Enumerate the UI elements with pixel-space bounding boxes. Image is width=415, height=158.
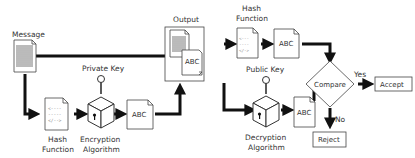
decryption-label-2: Algorithm (248, 143, 285, 152)
signature-document: ABC (127, 100, 153, 129)
accept-text: Accept (380, 81, 404, 89)
digest-document: ABC (274, 29, 299, 58)
private-key-icon (98, 76, 105, 95)
encryption-label-2: Algorithm (83, 145, 120, 154)
hash-function-2-label-2: Function (236, 14, 268, 23)
no-label: No (335, 115, 346, 124)
signature-text: ABC (132, 111, 146, 119)
svg-text:-----: ----- (48, 112, 62, 117)
public-key-label: Public Key (246, 65, 285, 74)
decryption-label-1: Decryption (245, 133, 286, 142)
digest-text: ABC (279, 40, 293, 48)
hash-function-icon: <---- ----- </--> (45, 98, 68, 130)
arrow-output-to-decryption (224, 83, 251, 110)
decrypted-document: ABC (294, 97, 315, 127)
encryption-label-1: Encryption (80, 135, 121, 144)
message-document-icon (14, 40, 36, 72)
arrow-message-to-hash (25, 74, 35, 114)
accept-box: Accept (375, 77, 412, 91)
decryption-lock-cube-icon (253, 96, 279, 127)
decrypted-text: ABC (297, 109, 311, 117)
reject-box: Reject (313, 132, 346, 147)
digital-signature-diagram: Message <---- ----- </--> Hash Function … (0, 0, 415, 158)
output-container: ABC (165, 27, 204, 81)
output-signature-text: ABC (185, 58, 199, 66)
hash-function-label-2: Function (42, 145, 74, 154)
arrow-digest-to-compare (302, 44, 330, 59)
arrow-signature-to-output (155, 88, 180, 114)
output-label: Output (173, 15, 199, 24)
private-key-label: Private Key (82, 64, 125, 73)
message-label: Message (12, 30, 45, 39)
hash-function-2-label-1: Hash (242, 4, 261, 13)
compare-text: Compare (314, 81, 346, 89)
reject-text: Reject (318, 136, 340, 144)
hash-function-label-1: Hash (48, 135, 67, 144)
hash-function-2-icon: <--- ---- </-> (237, 28, 258, 58)
public-key-icon (263, 77, 270, 95)
svg-text:----: ---- (239, 42, 249, 47)
encryption-lock-cube-icon (88, 97, 114, 128)
svg-text:</->: </-> (239, 48, 250, 53)
yes-label: Yes (353, 70, 366, 79)
svg-text:</-->: </--> (48, 118, 62, 123)
svg-text:<---: <--- (239, 36, 249, 41)
svg-text:<----: <---- (48, 106, 62, 111)
